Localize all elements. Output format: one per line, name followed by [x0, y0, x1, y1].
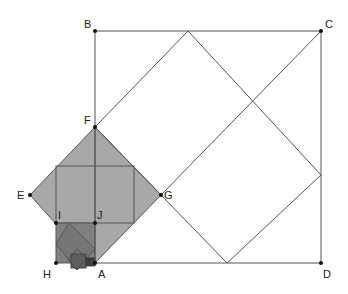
label-a: A	[98, 268, 106, 280]
label-c: C	[325, 18, 333, 30]
label-b: B	[84, 18, 91, 30]
point-g	[159, 193, 163, 197]
point-i	[54, 221, 58, 225]
label-j: J	[97, 209, 103, 221]
point-d	[319, 261, 323, 265]
label-e: E	[17, 189, 24, 201]
point-f	[93, 125, 97, 129]
label-d: D	[323, 268, 331, 280]
label-g: G	[164, 189, 173, 201]
point-e	[28, 193, 32, 197]
point-a	[93, 261, 97, 265]
geometric-diagram: A B C D E F G H I J	[0, 0, 348, 294]
point-j	[93, 221, 97, 225]
point-c	[319, 29, 323, 33]
point-b	[93, 29, 97, 33]
point-h	[54, 261, 58, 265]
label-h: H	[43, 268, 51, 280]
label-i: I	[58, 209, 61, 221]
label-f: F	[84, 114, 91, 126]
diagonal-gc	[161, 31, 321, 195]
